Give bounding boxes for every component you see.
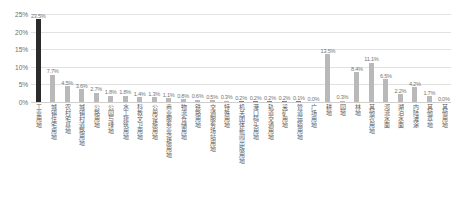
x-axis-category-label: 河流水面	[383, 104, 390, 128]
x-axis-label-slot: 湖泊水面	[393, 104, 407, 196]
x-axis-label-slot: 其他用地	[437, 104, 451, 196]
x-axis-category-label: 科教文卫用地	[136, 104, 143, 140]
bar-value-label: 23.5%	[31, 13, 46, 19]
bar[interactable]: 0.8%	[181, 99, 186, 102]
x-axis-category-label: 轨道交通用地	[267, 104, 274, 140]
bar[interactable]: 0.2%	[239, 101, 244, 102]
bar-slot: 1.1%	[161, 14, 175, 102]
bar-value-label: 0.1%	[293, 95, 305, 101]
bar[interactable]: 0.3%	[340, 101, 345, 102]
bar[interactable]: 11.1%	[369, 63, 374, 102]
bar-value-label: 11.1%	[364, 56, 378, 62]
bar-slot: 2.7%	[89, 14, 103, 102]
bar-value-label: 0.2%	[250, 95, 262, 101]
x-axis-label-slot: 其他农用地	[364, 104, 378, 196]
bar[interactable]: 2.2%	[398, 94, 403, 102]
bar-value-label: 13.5%	[321, 48, 336, 54]
x-axis-label-slot: 轨道交通用地	[263, 104, 277, 196]
bar[interactable]: 0.6%	[195, 100, 200, 102]
x-axis-label-slot: 公路用地	[89, 104, 103, 196]
bar-value-label: 1.8%	[105, 89, 117, 95]
x-axis-category-label: 商业服务业设施用地	[165, 104, 172, 158]
bar-value-label: 0.3%	[337, 94, 349, 100]
bar[interactable]: 4.5%	[65, 86, 70, 102]
bar[interactable]: 0.2%	[253, 101, 258, 102]
bar-slot: 1.3%	[147, 14, 161, 102]
y-axis-tick-label: 0%	[19, 99, 28, 106]
bar-slot: 0.1%	[292, 14, 306, 102]
bar-slot: 0.0%	[306, 14, 320, 102]
bar-series: 23.5%7.7%4.5%3.6%2.7%1.8%1.8%1.4%1.3%1.1…	[31, 14, 451, 102]
x-axis-label-slot: 公用设施用地	[147, 104, 161, 196]
x-axis-category-label: 其他农用地	[368, 104, 375, 134]
bar[interactable]: 0.2%	[267, 101, 272, 102]
x-axis-label-slot: 采矿用地	[277, 104, 291, 196]
x-axis-category-label: 特殊用地	[223, 104, 230, 128]
bar-value-label: 4.5%	[61, 80, 73, 86]
bar-value-label: 0.2%	[235, 95, 247, 101]
x-axis-category-label: 林地	[354, 104, 361, 116]
x-axis-category-label: 物流仓储用地	[180, 104, 187, 140]
bar-value-label: 3.6%	[76, 83, 88, 89]
x-axis-category-label: 湖泊水面	[397, 104, 404, 128]
x-axis-label-slot: 广场用地	[306, 104, 320, 196]
x-axis-label-slot: 科教文卫用地	[132, 104, 146, 196]
bar-slot: 0.3%	[335, 14, 349, 102]
x-axis-label-slot: 交通服务场站用地	[205, 104, 219, 196]
x-axis-label-slot: 管道运输用地	[292, 104, 306, 196]
x-axis-labels: 工业用地城镇住宅用地农村宅基地城镇村道路用地公路用地公园与绿地水工建筑用地科教文…	[31, 104, 451, 196]
bar[interactable]: 0.3%	[224, 101, 229, 102]
bar-value-label: 0.6%	[192, 93, 204, 99]
bar[interactable]: 4.2%	[412, 87, 417, 102]
y-axis-tick-label: 25%	[15, 11, 28, 18]
bar[interactable]: 8.4%	[354, 72, 359, 102]
bar-slot: 0.2%	[277, 14, 291, 102]
bar[interactable]: 7.7%	[50, 75, 55, 102]
x-axis-label-slot: 水工建筑用地	[118, 104, 132, 196]
bar-slot: 0.5%	[205, 14, 219, 102]
x-axis-label-slot: 内陆滩涂	[408, 104, 422, 196]
bar[interactable]: 1.8%	[123, 96, 128, 102]
bar-value-label: 0.8%	[177, 93, 189, 99]
bar[interactable]: 0.5%	[210, 100, 215, 102]
x-axis-label-slot: 其他草地	[422, 104, 436, 196]
bar[interactable]: 23.5%	[36, 19, 41, 102]
x-axis-category-label: 其他用地	[441, 104, 448, 128]
x-axis-category-label: 工业用地	[35, 104, 42, 128]
bar[interactable]: 13.5%	[325, 54, 330, 102]
bar[interactable]: 1.8%	[108, 96, 113, 102]
gridline: 0%	[31, 102, 451, 103]
bar[interactable]: 1.1%	[166, 98, 171, 102]
bar[interactable]: 6.5%	[383, 79, 388, 102]
bar-slot: 7.7%	[45, 14, 59, 102]
bar-chart: 0%5%10%15%20%25% 23.5%7.7%4.5%3.6%2.7%1.…	[0, 0, 457, 201]
bar-value-label: 2.7%	[90, 86, 102, 92]
bar-slot: 2.2%	[393, 14, 407, 102]
x-axis-category-label: 城镇村道路用地	[78, 104, 85, 146]
bar-slot: 0.6%	[190, 14, 204, 102]
bar-slot: 1.8%	[118, 14, 132, 102]
bar[interactable]: 3.6%	[79, 89, 84, 102]
x-axis-label-slot: 园地	[335, 104, 349, 196]
bar-value-label: 0.2%	[264, 95, 276, 101]
bar-value-label: 2.2%	[394, 88, 406, 94]
bar[interactable]: 2.7%	[94, 93, 99, 103]
y-axis-tick-label: 15%	[15, 46, 28, 53]
bar-slot: 11.1%	[364, 14, 378, 102]
bar-slot: 0.3%	[219, 14, 233, 102]
bar-value-label: 6.5%	[380, 73, 392, 79]
bar[interactable]: 1.3%	[152, 97, 157, 102]
x-axis-label-slot: 铁路用地	[190, 104, 204, 196]
bar-value-label: 0.5%	[206, 94, 218, 100]
bar-value-label: 0.2%	[279, 95, 291, 101]
x-axis-category-label: 农村宅基地	[64, 104, 71, 134]
x-axis-label-slot: 林地	[350, 104, 364, 196]
bar[interactable]: 0.2%	[282, 101, 287, 102]
bar-value-label: 0.3%	[221, 94, 233, 100]
bar[interactable]: 1.4%	[137, 97, 142, 102]
bar[interactable]: 1.7%	[427, 96, 432, 102]
bar-slot: 8.4%	[350, 14, 364, 102]
bar-slot: 0.2%	[263, 14, 277, 102]
bar[interactable]: 0.1%	[296, 101, 301, 102]
bar-slot: 3.6%	[74, 14, 88, 102]
